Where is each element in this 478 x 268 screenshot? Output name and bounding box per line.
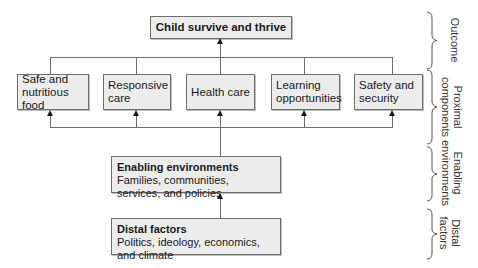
level-label-enabling-text: Enabling environments (440, 140, 464, 206)
level-label-distal: Distal factors (438, 208, 462, 258)
level-label-enabling: Enabling environments (440, 133, 464, 213)
arrowhead-health (217, 110, 223, 116)
bottom-connector (50, 127, 393, 128)
drop-5 (392, 57, 393, 74)
enabling-title: Enabling environments (117, 161, 275, 174)
drop-1 (50, 57, 51, 74)
top-connector (50, 57, 393, 58)
proximal-label: Safe and nutritious food (22, 73, 84, 112)
arrowhead-learning (301, 110, 307, 116)
arrowhead-safety (389, 110, 395, 116)
arrowhead-outcome (217, 38, 223, 44)
proximal-safe-nutritious-food: Safe and nutritious food (17, 74, 89, 110)
brace-distal (426, 209, 438, 259)
drop-4 (304, 57, 305, 74)
arrowhead-enabling (217, 193, 223, 199)
drop-2 (136, 57, 137, 74)
level-label-proximal-text: Proximal components (440, 77, 464, 137)
connector-distal-to-enabling (220, 197, 221, 218)
level-label-outcome: Outcome (449, 10, 461, 70)
proximal-health-care: Health care (186, 74, 255, 110)
enabling-subtitle: Families, communities, services, and pol… (117, 174, 275, 200)
distal-title: Distal factors (117, 223, 275, 236)
brace-outcome (426, 12, 438, 69)
proximal-label: Health care (191, 86, 250, 99)
brace-proximal (426, 70, 438, 144)
distal-factors-box: Distal factors Politics, ideology, econo… (111, 218, 281, 255)
brace-enabling (426, 147, 438, 201)
proximal-label: Safety and security (359, 79, 418, 105)
outcome-title: Child survive and thrive (156, 21, 286, 34)
level-label-distal-text: Distal factors (438, 216, 462, 249)
arrowhead-responsive (133, 110, 139, 116)
connector-health-to-outcome (220, 44, 221, 74)
arrowhead-food (47, 110, 53, 116)
distal-subtitle: Politics, ideology, economics, and clima… (117, 236, 275, 262)
proximal-label: Learning opportunities (276, 79, 342, 105)
proximal-responsive-care: Responsive care (103, 74, 171, 110)
proximal-label: Responsive care (108, 79, 168, 105)
enabling-environments-box: Enabling environments Families, communit… (111, 156, 281, 193)
rise-3 (220, 114, 221, 156)
outcome-box: Child survive and thrive (150, 16, 292, 39)
proximal-safety-security: Safety and security (354, 74, 423, 110)
proximal-learning-opportunities: Learning opportunities (271, 74, 340, 110)
